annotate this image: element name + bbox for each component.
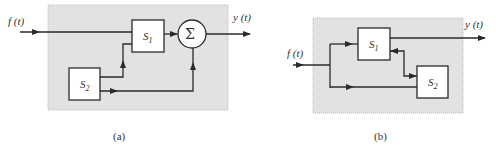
- input-label-b: f (t): [287, 47, 304, 60]
- caption-b: (b): [374, 130, 387, 143]
- input-arrow-a: [32, 29, 40, 35]
- sigma-symbol: Σ: [185, 26, 195, 42]
- diagram-a: S1 Σ S2 f (t) y (t) (a): [8, 5, 251, 143]
- diagram-b: S1 S2 f (t) y (t) (b): [287, 18, 485, 143]
- caption-a: (a): [113, 130, 126, 143]
- block-diagrams: S1 Σ S2 f (t) y (t) (a) S1: [0, 0, 496, 150]
- input-arrow-b: [296, 62, 304, 68]
- input-label-a: f (t): [8, 15, 25, 28]
- output-label-a: y (t): [232, 11, 251, 24]
- output-label-b: y (t): [464, 18, 483, 31]
